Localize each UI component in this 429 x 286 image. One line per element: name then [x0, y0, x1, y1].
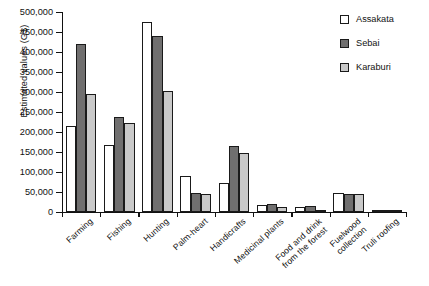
y-tick [56, 12, 62, 13]
legend-label-karaburi: Karaburi [356, 62, 391, 72]
bar-fuelwood-collection-assakata [333, 193, 343, 212]
y-tick-label: 450,000 [20, 27, 53, 37]
legend-label-sebai: Sebai [356, 38, 380, 48]
x-axis-label: Handicrafts [208, 216, 248, 253]
bar-truli-roofing-karaburi [392, 210, 402, 212]
bar-hunting-sebai [152, 36, 162, 212]
bar-handicrafts-assakata [219, 183, 229, 212]
bar-medicinal-plants-assakata [257, 205, 267, 212]
y-tick [56, 132, 62, 133]
x-tick [253, 212, 254, 217]
bar-farming-karaburi [86, 94, 96, 212]
bar-food-and-drink-from-the-forest-assakata [295, 207, 305, 212]
y-tick-label: 250,000 [20, 107, 53, 117]
y-tick-label: 50,000 [25, 187, 53, 197]
x-label-line: Hunting [142, 216, 171, 244]
bar-handicrafts-karaburi [239, 153, 249, 212]
x-axis-line [62, 212, 406, 213]
y-tick-label: 350,000 [20, 67, 53, 77]
bar-food-and-drink-from-the-forest-sebai [305, 206, 315, 212]
bar-truli-roofing-sebai [382, 210, 392, 212]
bar-group [257, 12, 288, 212]
x-axis-label: Fishing [105, 216, 133, 242]
bar-medicinal-plants-sebai [267, 204, 277, 212]
bar-fishing-sebai [114, 117, 124, 212]
bar-palm-heart-sebai [191, 193, 201, 212]
x-label-line: Palm-heart [171, 216, 210, 252]
y-tick [56, 92, 62, 93]
x-tick [330, 212, 331, 217]
bar-farming-assakata [66, 126, 76, 212]
y-tick [56, 52, 62, 53]
bar-palm-heart-assakata [180, 176, 190, 212]
bar-food-and-drink-from-the-forest-karaburi [316, 210, 326, 212]
y-tick-label: 500,000 [20, 7, 53, 17]
x-tick [100, 212, 101, 217]
y-tick-label: 300,000 [20, 87, 53, 97]
legend-item: Karaburi [340, 62, 394, 72]
x-axis-label: Truli roofing [359, 216, 400, 254]
y-axis-line [62, 12, 63, 212]
legend-swatch-assakata [340, 15, 349, 24]
bar-group [104, 12, 135, 212]
bar-group [295, 12, 326, 212]
bar-fishing-assakata [104, 145, 114, 212]
y-tick [56, 192, 62, 193]
legend-item: Assakata [340, 14, 394, 24]
x-tick [138, 212, 139, 217]
x-label-line: Farming [64, 216, 95, 245]
bar-group [142, 12, 173, 212]
bar-truli-roofing-assakata [372, 210, 382, 212]
x-tick [177, 212, 178, 217]
x-tick [406, 212, 407, 217]
bar-palm-heart-karaburi [201, 194, 211, 212]
y-tick [56, 72, 62, 73]
bar-medicinal-plants-karaburi [277, 207, 287, 212]
bar-group [180, 12, 211, 212]
x-axis-label: Farming [64, 216, 95, 245]
bar-hunting-assakata [142, 22, 152, 212]
x-tick [291, 212, 292, 217]
y-tick-label: 400,000 [20, 47, 53, 57]
y-tick-label: 200,000 [20, 127, 53, 137]
bar-group [66, 12, 97, 212]
bar-farming-sebai [76, 44, 86, 212]
bar-handicrafts-sebai [229, 146, 239, 212]
bar-fuelwood-collection-karaburi [354, 194, 364, 212]
x-label-line: Fishing [105, 216, 133, 242]
legend: Assakata Sebai Karaburi [340, 14, 394, 86]
bar-group [219, 12, 250, 212]
bar-fishing-karaburi [124, 123, 134, 212]
x-axis-label: Palm-heart [171, 216, 210, 252]
y-tick-label: 0 [48, 207, 53, 217]
x-label-line: Handicrafts [208, 216, 248, 253]
y-tick-label: 100,000 [20, 167, 53, 177]
y-tick [56, 112, 62, 113]
x-tick [62, 212, 63, 217]
x-tick [215, 212, 216, 217]
x-label-line: Truli roofing [359, 216, 400, 254]
y-tick-label: 150,000 [20, 147, 53, 157]
legend-label-assakata: Assakata [356, 14, 394, 24]
y-tick [56, 172, 62, 173]
bar-fuelwood-collection-sebai [344, 194, 354, 212]
x-tick [368, 212, 369, 217]
bar-chart: Estimated values (G$) 050,000100,000150,… [0, 0, 429, 286]
x-axis-label: Hunting [142, 216, 171, 244]
y-tick [56, 152, 62, 153]
legend-swatch-karaburi [340, 63, 349, 72]
bar-hunting-karaburi [163, 91, 173, 212]
legend-swatch-sebai [340, 39, 349, 48]
legend-item: Sebai [340, 38, 394, 48]
y-tick [56, 32, 62, 33]
